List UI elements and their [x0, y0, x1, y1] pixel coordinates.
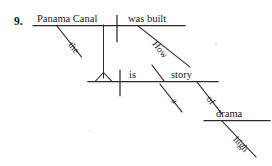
word-drama: drama	[216, 108, 243, 119]
modifier-line-the	[57, 26, 82, 57]
item-number: 9.	[14, 15, 23, 27]
word-panama-canal: Panama Canal	[37, 13, 97, 24]
word-how: How	[150, 39, 169, 60]
word-story: story	[171, 69, 193, 80]
sentence-diagram-canvas: 9. Panama Canal was built the How is sto…	[0, 0, 272, 166]
scan-speck	[89, 130, 90, 131]
word-high: high	[232, 135, 251, 154]
diagram-page: 9. Panama Canal was built the How is sto…	[0, 0, 272, 166]
word-the: the	[66, 40, 81, 55]
word-was-built: was built	[128, 13, 166, 24]
scan-speck	[215, 43, 217, 45]
word-is: is	[129, 69, 136, 80]
predicate-nominative-divider	[152, 65, 164, 81]
